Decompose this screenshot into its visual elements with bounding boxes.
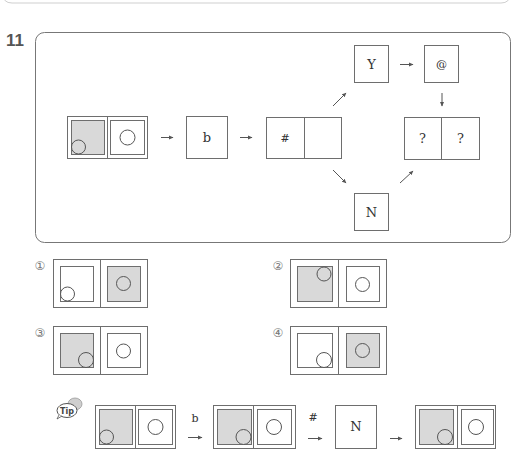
- start-figure: [68, 117, 148, 159]
- question-number: 11: [6, 31, 24, 50]
- step-hash-label: #: [280, 132, 289, 145]
- tip-figure-3: [416, 406, 496, 449]
- option-marker: ③: [35, 326, 46, 340]
- circle-icon: [79, 353, 94, 368]
- option-4[interactable]: ④: [273, 326, 387, 375]
- option-marker: ②: [273, 259, 284, 273]
- branch-no-box: N: [355, 194, 389, 231]
- circle-icon: [317, 267, 331, 281]
- branch-yes-label: Y: [366, 57, 376, 72]
- circle-icon: [100, 430, 114, 444]
- option-3[interactable]: ③: [35, 326, 148, 375]
- step-hash-box: #: [267, 118, 342, 159]
- tip-figure-1: [96, 406, 176, 449]
- circle-icon: [317, 353, 332, 368]
- step-at-label: @: [436, 58, 447, 71]
- circle-icon: [236, 430, 251, 445]
- tip-step-2-label: #: [308, 411, 317, 424]
- circle-icon: [61, 287, 75, 301]
- option-marker: ④: [273, 326, 284, 340]
- branch-yes-box: Y: [355, 46, 389, 83]
- step-at-box: @: [425, 46, 459, 83]
- circle-icon: [148, 420, 163, 435]
- result-right-label: ?: [457, 131, 464, 146]
- tip-step-1-label: b: [191, 412, 198, 425]
- option-marker: ①: [35, 259, 46, 273]
- circle-icon: [438, 430, 453, 445]
- circle-icon: [469, 420, 484, 435]
- circle-icon: [120, 130, 135, 145]
- circle-icon: [267, 420, 282, 435]
- option-1[interactable]: ①: [35, 259, 148, 308]
- tip-figure-2: [214, 406, 296, 449]
- result-left-label: ?: [419, 131, 426, 146]
- step-b-box: b: [187, 117, 228, 159]
- circle-icon: [72, 140, 86, 154]
- circle-icon: [117, 344, 131, 358]
- arrow-up-right-icon: [333, 93, 346, 106]
- puzzle-canvas: 11 b # Y @ ?: [0, 0, 513, 449]
- tip-step-3-label: N: [350, 419, 361, 434]
- arrow-up-right-icon: [400, 171, 413, 183]
- circle-icon: [356, 278, 370, 292]
- tip-label: Tip: [60, 407, 74, 416]
- tip-n-box: N: [336, 406, 377, 449]
- result-box: ? ?: [405, 118, 480, 160]
- branch-no-label: N: [366, 205, 377, 220]
- option-2[interactable]: ②: [273, 259, 387, 308]
- circle-icon: [117, 277, 131, 291]
- arrow-down-right-icon: [333, 170, 346, 183]
- previous-panel-edge: [3, 0, 510, 3]
- tip-icon: Tip: [57, 398, 82, 419]
- step-b-label: b: [203, 130, 211, 145]
- circle-icon: [356, 344, 370, 358]
